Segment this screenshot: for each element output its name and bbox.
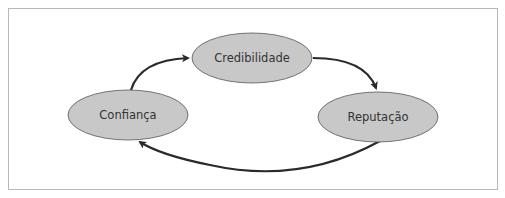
node-reputacao-label: Reputação [318, 92, 438, 142]
arrow-credibilidade-to-reputacao [313, 58, 376, 88]
node-credibilidade-label: Credibilidade [192, 33, 312, 83]
node-confianca-label: Confiança [68, 90, 188, 140]
arrow-confianca-to-credibilidade [131, 58, 188, 90]
arrow-reputacao-to-confianca [140, 141, 380, 171]
